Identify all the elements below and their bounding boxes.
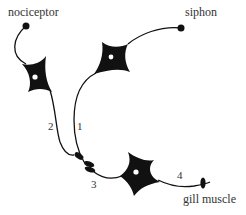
label-neuron-3: 3: [91, 179, 97, 190]
motor-soma: [120, 152, 160, 196]
neural-circuit-diagram: nociceptor siphon gill muscle 1 2 3 4: [0, 0, 246, 215]
label-nociceptor: nociceptor: [8, 6, 59, 18]
gill-muscle-junction: [200, 178, 205, 189]
motor-nucleus: [133, 169, 138, 174]
siphon-nucleus: [109, 55, 114, 60]
nociceptor-neuron: [15, 23, 85, 162]
label-gill-muscle: gill muscle: [183, 193, 236, 205]
circuit-drawing: [0, 0, 246, 215]
siphon-neuron: [74, 25, 185, 174]
motor-neuron: [94, 152, 210, 196]
label-neuron-2: 2: [48, 121, 54, 132]
label-neuron-1: 1: [77, 121, 83, 132]
label-siphon: siphon: [185, 6, 217, 18]
label-neuron-4: 4: [177, 170, 183, 181]
nociceptor-soma: [22, 56, 52, 92]
nociceptor-nucleus: [32, 74, 37, 79]
